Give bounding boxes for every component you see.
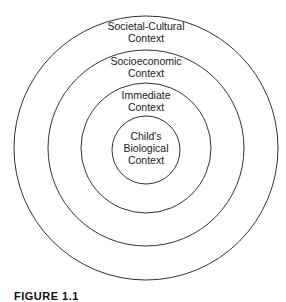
label-societal-cultural-line2: Context	[128, 32, 164, 44]
figure-caption: FIGURE 1.1	[14, 290, 79, 302]
label-socioeconomic-line1: Socioeconomic	[110, 55, 181, 67]
label-immediate-line1: Immediate	[121, 89, 170, 101]
label-immediate-line2: Context	[128, 101, 164, 113]
label-childs-biological-line3: Context	[128, 154, 164, 166]
label-societal-cultural-line1: Societal-Cultural	[107, 20, 184, 32]
label-socioeconomic-line2: Context	[128, 67, 164, 79]
label-childs-biological-line1: Child's	[130, 130, 161, 142]
label-childs-biological-line2: Biological	[124, 142, 169, 154]
